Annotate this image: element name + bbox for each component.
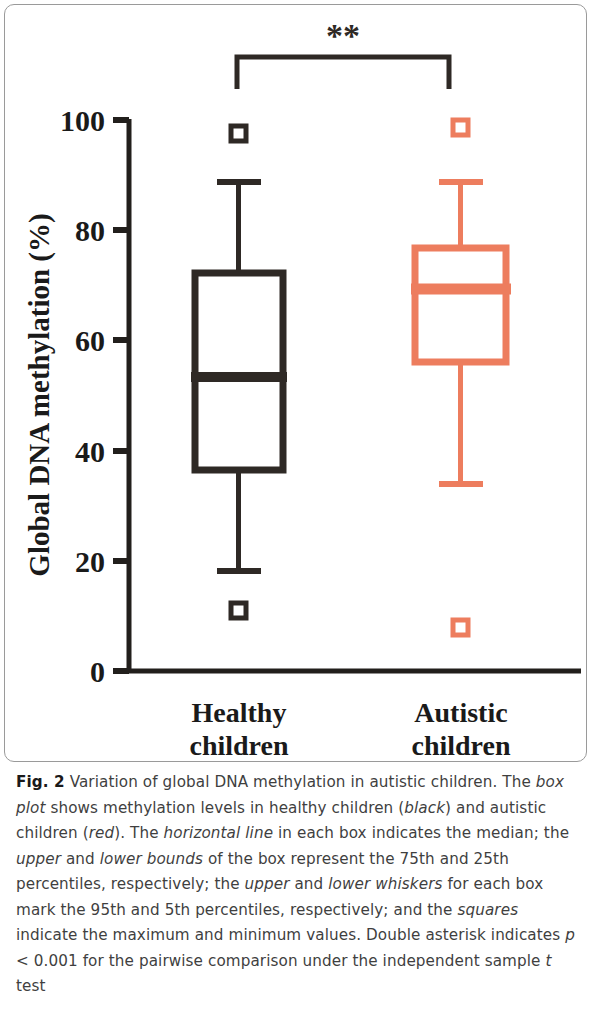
x-label-healthy-line1: Healthy	[192, 697, 287, 728]
box-autistic	[415, 248, 506, 362]
y-tick-label-80: 80	[75, 214, 105, 247]
min-marker-healthy	[231, 603, 246, 618]
y-tick-label-60: 60	[75, 324, 105, 357]
x-axis-category-labels: Healthy children Autistic children	[189, 697, 510, 761]
significance-asterisks: **	[326, 17, 360, 54]
y-axis-tick-labels: 100 80 60 40 20 0	[60, 104, 105, 688]
x-label-autistic-line1: Autistic	[414, 697, 507, 728]
y-tick-label-20: 20	[75, 545, 105, 578]
max-marker-autistic	[453, 120, 468, 135]
y-axis: 100 80 60 40 20 0 Global DNA methylation…	[23, 104, 581, 688]
significance-bracket	[237, 57, 449, 89]
significance-annotation: **	[237, 17, 449, 89]
y-tick-label-100: 100	[60, 104, 105, 137]
box-plot-healthy-children	[191, 126, 287, 618]
figure-caption: Fig. 2 Variation of global DNA methylati…	[16, 770, 580, 1000]
max-marker-healthy	[231, 126, 246, 141]
min-marker-autistic	[453, 620, 468, 635]
x-label-autistic-line2: children	[411, 730, 510, 761]
box-plot-chart: ** 100 80 60 40 20	[5, 5, 588, 763]
box-plot-autistic-children	[411, 120, 511, 635]
y-tick-label-40: 40	[75, 435, 105, 468]
figure-label: Fig. 2	[16, 773, 65, 791]
figure-panel: ** 100 80 60 40 20	[4, 4, 587, 762]
y-tick-label-0: 0	[90, 655, 105, 688]
y-axis-title: Global DNA methylation (%)	[23, 213, 56, 576]
x-label-healthy-line2: children	[189, 730, 288, 761]
figure-caption-body: Variation of global DNA methylation in a…	[16, 773, 575, 995]
box-healthy	[195, 273, 283, 470]
